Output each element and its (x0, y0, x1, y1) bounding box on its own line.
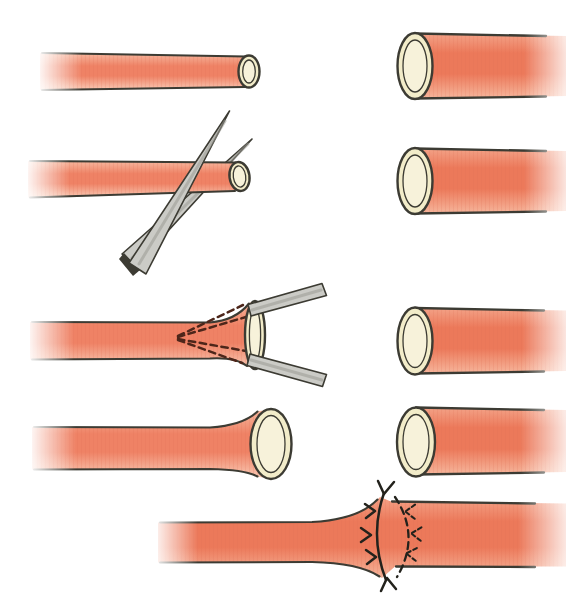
suture-knot-bottom (381, 578, 396, 591)
open-end-lumen (403, 155, 427, 207)
completed-anastomosis-with-sutures (152, 481, 576, 591)
left-fade (28, 422, 76, 475)
forceps-dilating-small-vessel (26, 284, 327, 387)
right-fade (522, 302, 576, 380)
right-fade (520, 402, 576, 480)
small-vessel-transected (36, 48, 260, 94)
large-vessel-open-end-row1 (398, 28, 577, 104)
large-vessel-open-end-row2 (398, 143, 577, 219)
illustration-canvas (0, 0, 583, 605)
open-end-lumen (403, 315, 427, 368)
open-end-lumen (403, 415, 429, 470)
right-fade (524, 143, 576, 219)
left-fade (152, 516, 198, 568)
small-vessel-flared-end (28, 409, 292, 479)
surgical-anastomosis-figure (0, 0, 583, 605)
left-fade (26, 317, 74, 365)
scissors-trimming-small-vessel (24, 111, 252, 276)
large-vessel-bottom-edge (396, 567, 535, 568)
cut-end-lumen (243, 60, 256, 83)
flared-end-lumen (257, 416, 285, 473)
left-fade (24, 156, 70, 203)
suture-knot-top (378, 481, 394, 494)
left-fade (36, 48, 82, 94)
open-end-lumen (403, 40, 427, 92)
large-vessel-open-end-row4 (397, 402, 576, 480)
right-fade (524, 28, 576, 104)
right-fade (518, 497, 576, 573)
large-vessel-open-end-row3 (398, 302, 577, 380)
